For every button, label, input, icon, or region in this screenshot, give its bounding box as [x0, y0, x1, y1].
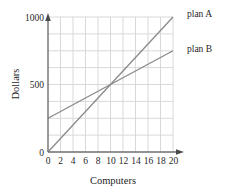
x-tick-label-8: 8 [96, 156, 101, 166]
x-tick-label-10: 10 [106, 156, 116, 166]
x-tick-label-0: 0 [46, 156, 51, 166]
x-tick-label-16: 16 [144, 156, 154, 166]
y-tick-label-0: 0 [39, 148, 44, 158]
x-tick-label-18: 18 [156, 156, 166, 166]
y-axis-title: Dollars [10, 69, 21, 100]
chart-container: 1000 500 0 0 2 4 6 8 10 12 14 16 18 20 C… [0, 0, 227, 196]
x-tick-label-12: 12 [119, 156, 129, 166]
series-label-plan-b: plan B [187, 44, 212, 54]
x-axis-arrow-icon [176, 149, 184, 155]
line-chart: 1000 500 0 0 2 4 6 8 10 12 14 16 18 20 C… [0, 0, 227, 196]
x-axis-title: Computers [90, 175, 136, 186]
x-tick-label-14: 14 [131, 156, 141, 166]
x-tick-label-6: 6 [83, 156, 88, 166]
x-tick-label-20: 20 [169, 156, 179, 166]
y-tick-label-500: 500 [30, 80, 45, 90]
y-tick-label-1000: 1000 [25, 13, 44, 23]
series-label-plan-a: plan A [187, 9, 212, 19]
x-tick-label-2: 2 [58, 156, 63, 166]
x-tick-label-4: 4 [71, 156, 76, 166]
